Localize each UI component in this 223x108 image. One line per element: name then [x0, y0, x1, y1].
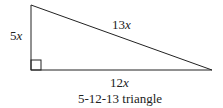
caption: 5-12-13 triangle: [78, 91, 162, 106]
side-label-hypotenuse: 13x: [112, 17, 131, 32]
side-label-vertical: 5x: [10, 28, 23, 43]
triangle: [31, 5, 212, 70]
side-label-horizontal: 12x: [110, 75, 129, 90]
triangle-diagram: 5x 13x 12x 5-12-13 triangle: [0, 0, 223, 108]
right-angle-marker: [31, 60, 41, 70]
